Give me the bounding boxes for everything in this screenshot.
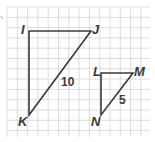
vertex-label-l: L xyxy=(93,64,101,79)
vertex-label-i: I xyxy=(21,22,25,37)
vertex-label-j: J xyxy=(92,22,100,37)
vertex-label-n: N xyxy=(91,114,101,129)
vertex-label-m: M xyxy=(134,64,146,79)
side-label-jk: 10 xyxy=(61,75,75,89)
vertex-label-k: K xyxy=(18,114,29,129)
side-label-mn: 5 xyxy=(119,93,126,107)
similar-triangles-diagram: I J K 10 L M N 5 xyxy=(0,0,155,142)
corner-mark xyxy=(1,16,3,19)
triangle-lmn: L M N 5 xyxy=(91,64,146,129)
